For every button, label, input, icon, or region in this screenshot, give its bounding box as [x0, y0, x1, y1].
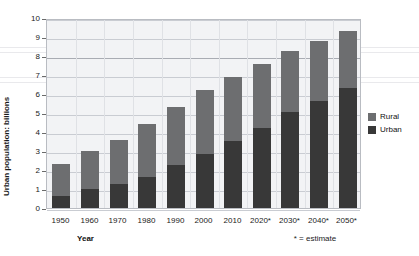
legend-swatch-urban-icon	[368, 126, 376, 134]
y-axis-tick-label: 4	[18, 129, 40, 137]
y-axis-tick-label: 7	[18, 72, 40, 80]
bar-column[interactable]	[196, 90, 214, 208]
bar-column[interactable]	[138, 124, 156, 208]
column-separator	[219, 20, 220, 208]
column-separator	[305, 20, 306, 208]
y-axis-tick-label: 6	[18, 91, 40, 99]
x-axis-tick-label: 2040*	[304, 217, 333, 225]
legend-swatch-rural-icon	[368, 113, 376, 121]
bar-column[interactable]	[167, 107, 185, 208]
plot-area	[46, 19, 361, 209]
bar-segment-urban	[339, 88, 357, 208]
gridline	[47, 210, 360, 211]
y-axis-tick-label: 2	[18, 167, 40, 175]
y-axis-title-text: Urban population: billions	[2, 36, 11, 196]
x-axis-tick-label: 1950	[46, 217, 75, 225]
chart-footnote: * = estimate	[250, 234, 380, 243]
bar-column[interactable]	[224, 77, 242, 208]
legend-item-urban: Urban	[368, 125, 402, 135]
y-axis-tick-label: 10	[18, 15, 40, 23]
y-axis-title: Urban population: billions	[2, 0, 14, 36]
bar-segment-urban	[138, 177, 156, 208]
column-separator	[76, 20, 77, 208]
column-separator	[333, 20, 334, 208]
column-separator	[247, 20, 248, 208]
bar-column[interactable]	[81, 151, 99, 208]
y-axis-tick-label: 0	[18, 205, 40, 213]
legend-label-rural: Rural	[380, 112, 399, 122]
bar-segment-urban	[52, 196, 70, 208]
column-separator	[133, 20, 134, 208]
x-axis-tick-label: 2010	[218, 217, 247, 225]
bar-segment-urban	[167, 165, 185, 208]
bar-segment-urban	[281, 112, 299, 208]
y-axis-tick-label: 5	[18, 110, 40, 118]
y-axis-tick-label: 3	[18, 148, 40, 156]
bar-segment-urban	[110, 184, 128, 208]
column-separator	[190, 20, 191, 208]
x-axis-tick-label: 2020*	[246, 217, 275, 225]
bar-column[interactable]	[310, 41, 328, 208]
x-axis-tick-label: 2030*	[275, 217, 304, 225]
bar-segment-urban	[81, 189, 99, 208]
x-axis-tick-label: 1970	[103, 217, 132, 225]
column-separator	[104, 20, 105, 208]
bar-column[interactable]	[339, 31, 357, 208]
bar-column[interactable]	[52, 164, 70, 208]
column-separator	[162, 20, 163, 208]
x-axis-tick-label: 2050*	[332, 217, 361, 225]
x-axis-tick-label: 2000	[189, 217, 218, 225]
x-axis-title-text: Year	[77, 234, 94, 243]
legend-item-rural: Rural	[368, 112, 402, 122]
y-axis-tick	[42, 209, 46, 210]
bar-segment-urban	[253, 128, 271, 208]
x-axis-tick-label: 1980	[132, 217, 161, 225]
legend-label-urban: Urban	[380, 125, 402, 135]
chart-figure: Urban population: billions 012345678910 …	[0, 0, 419, 256]
y-axis-tick-label: 1	[18, 186, 40, 194]
y-axis-tick-label: 8	[18, 53, 40, 61]
x-axis-tick-label: 1990	[161, 217, 190, 225]
bar-segment-urban	[310, 101, 328, 208]
bar-column[interactable]	[110, 140, 128, 208]
bar-column[interactable]	[253, 64, 271, 208]
x-axis-tick-label: 1960	[75, 217, 104, 225]
y-axis-tick-label: 9	[18, 34, 40, 42]
gridline	[47, 20, 360, 21]
bar-segment-urban	[196, 154, 214, 208]
bar-column[interactable]	[281, 51, 299, 208]
bar-segment-urban	[224, 141, 242, 208]
column-separator	[276, 20, 277, 208]
gridline	[47, 39, 360, 40]
chart-legend: Rural Urban	[368, 112, 402, 138]
